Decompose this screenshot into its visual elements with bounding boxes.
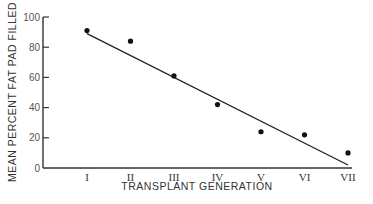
x-tick-label: I (85, 171, 89, 183)
y-tick-label: 100 (23, 12, 40, 23)
data-points (84, 28, 350, 156)
y-axis-title: MEAN PERCENT FAT PAD FILLED (6, 2, 18, 182)
axes (43, 17, 352, 168)
data-point (84, 28, 89, 33)
data-point (345, 150, 350, 155)
x-axis-title: TRANSPLANT GENERATION (121, 180, 272, 192)
trend-line (87, 34, 348, 165)
chart: 020406080100 IIIIIIIVVVIVII TRANSPLANT G… (0, 0, 373, 204)
x-tick-label: VII (340, 171, 356, 183)
y-tick-label: 80 (29, 42, 41, 53)
data-point (128, 39, 133, 44)
y-tick-label: 20 (29, 132, 41, 143)
data-point (302, 132, 307, 137)
data-point (171, 73, 176, 78)
x-tick-label: VI (299, 171, 311, 183)
regression-line (87, 34, 348, 165)
y-ticks: 020406080100 (23, 12, 49, 174)
data-point (215, 102, 220, 107)
y-tick-label: 0 (34, 163, 40, 174)
data-point (258, 129, 263, 134)
y-tick-label: 60 (29, 72, 41, 83)
y-tick-label: 40 (29, 102, 41, 113)
